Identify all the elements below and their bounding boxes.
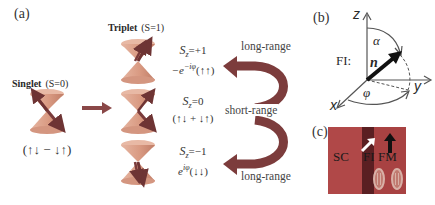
axis-y-label: y: [414, 78, 421, 94]
panel-c-label: (c): [312, 124, 328, 140]
range-label-bottom: long-range: [241, 170, 291, 182]
triplet-cone-plus-icon: [118, 38, 158, 84]
cooper-pair-icon: [372, 167, 406, 191]
vector-n-label: n: [370, 55, 378, 71]
triplet-cone-zero-icon: [118, 88, 158, 134]
sc-label: SC: [333, 149, 349, 165]
singlet-cone-icon: [27, 88, 67, 134]
triplet-title: Triplet (S=1): [108, 17, 164, 35]
range-label-middle: short-range: [224, 104, 278, 116]
fi-label: FI: [363, 149, 375, 165]
panel-a-label: (a): [14, 6, 30, 22]
layer-fi-label: FI:: [336, 53, 351, 69]
axis-z-label: z: [353, 6, 360, 22]
fm-label: FM: [378, 149, 397, 165]
angle-phi-label: φ: [363, 85, 370, 101]
panel-b-label: (b): [313, 10, 329, 26]
triplet-title-bold: Triplet: [108, 22, 137, 33]
singlet-to-triplet-arrow-icon: [82, 102, 112, 114]
triplet-title-spin: (S=1): [141, 22, 164, 33]
junction-diagram: SC FI FM: [328, 127, 406, 194]
range-label-top: long-range: [241, 40, 291, 52]
angle-alpha-label: α: [373, 33, 380, 49]
axis-x-label: x: [330, 97, 337, 113]
singlet-state: (↑↓ − ↓↑): [12, 144, 82, 156]
triplet-cone-minus-icon: [118, 139, 158, 185]
